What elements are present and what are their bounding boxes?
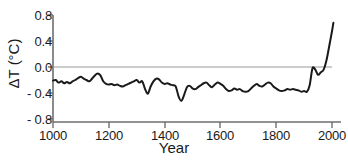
y-tick-label-0: 0.8 [35,9,52,22]
y-tick-label-3: - 0.4 [27,87,52,100]
y-tick-label-1: 0.4 [35,35,52,48]
y-tick-label-2: 0.0 [35,61,52,74]
temperature-anomaly-chart: 0.8 0.4 0.0 - 0.4 - 0.8 1000 1200 1400 1… [0,0,348,165]
y-axis-title: ΔT (°C) [6,14,21,114]
x-axis-title: Year [0,140,348,155]
temperature-series-line [53,23,333,101]
y-tick-label-4: - 0.8 [27,113,52,126]
axes [53,15,341,122]
